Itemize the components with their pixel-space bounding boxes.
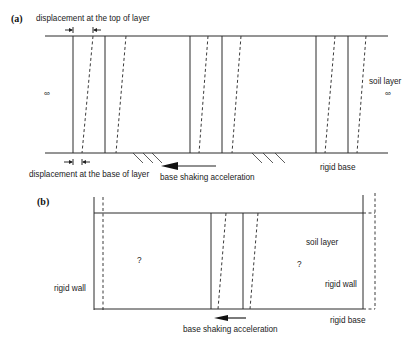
unknown-right: ?	[297, 260, 302, 269]
panel-a-label: (a)	[11, 13, 23, 25]
soil-columns-b	[211, 213, 258, 309]
left-wall-label: rigid wall	[54, 284, 86, 293]
base-shaking-arrow-a	[161, 162, 216, 170]
right-wall-label: rigid wall	[325, 280, 357, 289]
base-shaking-arrow-b	[214, 315, 246, 321]
ground-hatch-left	[133, 153, 162, 163]
base-displacement-marker	[64, 159, 90, 165]
base-shaking-label-b: base shaking acceleration	[183, 325, 278, 334]
panel-b-label: (b)	[37, 196, 49, 208]
base-displacement-label: displacement at the base of layer	[29, 170, 149, 179]
soil-columns	[73, 36, 366, 153]
infinity-left: ∞	[44, 89, 50, 98]
rigid-base-label-b: rigid base	[330, 316, 366, 325]
top-displacement-marker	[65, 27, 101, 33]
unknown-left: ?	[137, 256, 142, 265]
base-shaking-label-a: base shaking acceleration	[160, 173, 255, 182]
figure-canvas: (a) displacement at the top of layer	[0, 0, 409, 342]
top-displacement-label: displacement at the top of layer	[36, 14, 150, 23]
soil-layer-label-b: soil layer	[306, 238, 339, 247]
infinity-right: ∞	[385, 89, 391, 98]
panel-b: (b) ? ? soil layer rigid wall rigid wall…	[37, 193, 375, 334]
ground-hatch-right	[252, 153, 285, 163]
panel-a: (a) displacement at the top of layer	[11, 13, 402, 182]
soil-layer-label-a: soil layer	[369, 77, 402, 86]
rigid-base-label-a: rigid base	[320, 163, 356, 172]
